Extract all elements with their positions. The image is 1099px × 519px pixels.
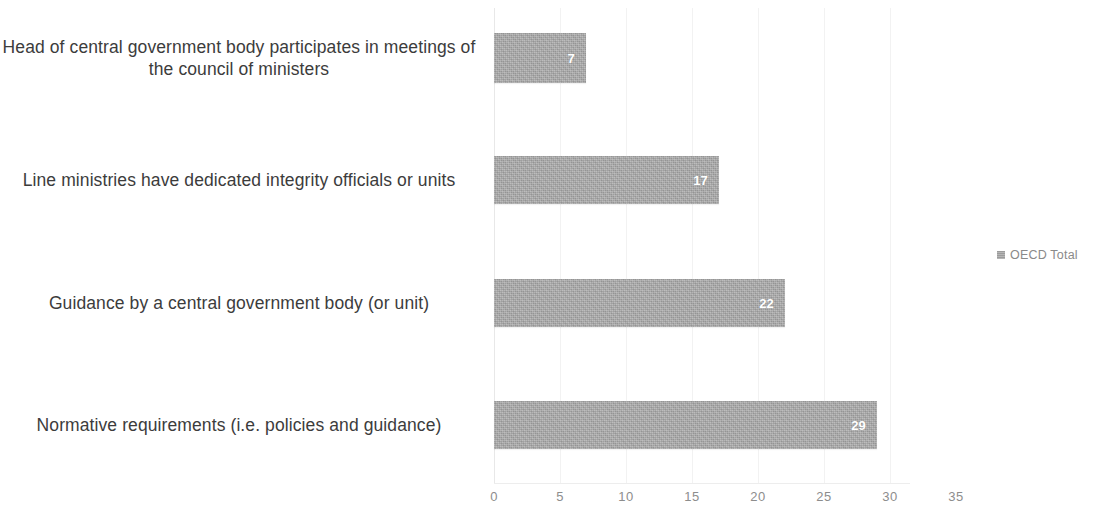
bar-value-label: 29 xyxy=(851,418,877,433)
legend-entry-label: OECD Total xyxy=(1010,248,1078,262)
category-axis-line xyxy=(494,483,910,484)
category-label: Normative requirements (i.e. policies an… xyxy=(0,414,478,436)
bar[interactable]: 29 xyxy=(494,401,877,449)
square-marker-icon xyxy=(997,251,1005,259)
bar-chart: Head of central government body particip… xyxy=(0,0,1099,519)
legend: OECD Total xyxy=(997,248,1078,262)
bar-value-label: 22 xyxy=(759,296,785,311)
bar-value-label: 17 xyxy=(693,173,719,188)
bar[interactable]: 22 xyxy=(494,279,785,327)
x-tick-label: 15 xyxy=(684,489,699,504)
gridline xyxy=(890,8,891,483)
plot-area: 7 17 22 29 xyxy=(494,8,897,483)
x-tick-label: 20 xyxy=(750,489,765,504)
x-tick-label: 0 xyxy=(490,489,498,504)
category-label: Line ministries have dedicated integrity… xyxy=(0,169,478,191)
bar-value-label: 7 xyxy=(568,51,586,66)
x-tick-label: 35 xyxy=(948,489,963,504)
x-tick-label: 10 xyxy=(618,489,633,504)
x-tick-label: 30 xyxy=(882,489,897,504)
x-tick-label: 5 xyxy=(556,489,564,504)
x-tick-label: 25 xyxy=(816,489,831,504)
bar[interactable]: 7 xyxy=(494,33,586,83)
category-label: Guidance by a central government body (o… xyxy=(0,292,478,314)
bar[interactable]: 17 xyxy=(494,156,719,204)
category-label: Head of central government body particip… xyxy=(0,36,478,81)
